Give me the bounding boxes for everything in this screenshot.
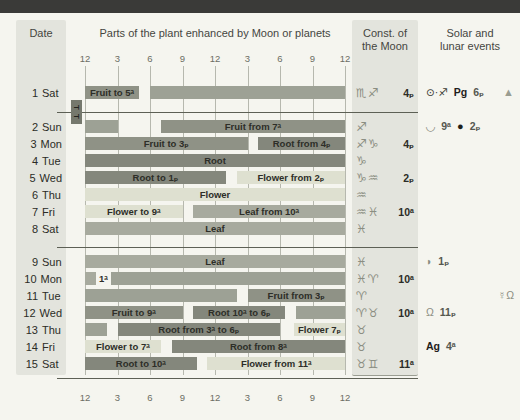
date-label: 8Sat [16,222,62,235]
bar-label: Fruit to 5ᵃ [90,87,134,98]
flower-bar: Flower 7ₚ [294,323,345,336]
leaf-bar: Leaf from 10ᵃ [193,205,345,218]
date-label: 15Sat [16,357,62,370]
leaf-bar [85,272,96,285]
section-separator [57,247,418,248]
axis-tick-bottom: 9 [180,392,185,403]
sign-change-time: 10ᵃ [398,206,414,218]
sign-change-time: 4ₚ [403,87,414,99]
moon-constellation: ♉ [356,323,414,336]
zodiac-signs: ♐♑ [356,137,380,151]
sun-into-sagittarius: ⊙·♐ [426,86,448,98]
moon-constellation: ♈♉10ᵃ [356,306,414,319]
axis-tick-bottom: 3 [115,392,120,403]
bar-label: Leaf from 10ᵃ [239,206,299,217]
root-bar: Root to 1ₚ [85,171,226,184]
date-label: 6Thu [16,188,62,201]
moon-constellation: ♒♓10ᵃ [356,205,414,218]
calendar-page: Date Parts of the plant enhanced by Moon… [0,0,520,420]
moon-constellation: ♓ [356,255,414,268]
page-top-bar [0,0,520,13]
mercury-node-icon: ☿Ω [498,289,514,301]
axis-tick-top: 3 [245,53,250,64]
date-label: 13Thu [16,323,62,336]
axis-tick-bottom: 6 [147,392,152,403]
bar-time-note: 1ᵃ [99,273,108,284]
moon-constellation: ♑ [356,154,414,167]
date-label: 2Sun [16,120,62,133]
moon-constellation: ♓♈10ᵃ [356,272,414,285]
first-quarter-time: 1ₚ [438,255,449,267]
moon-constellation: ♑♒2ₚ [356,171,414,184]
root-bar: Root from 3ᵃ to 6ₚ [118,323,281,336]
leaf-bar: Leaf [85,222,345,235]
axis-tick-top: 9 [310,53,315,64]
date-label: 9Sun [16,255,62,268]
flower-bar: Flower from 11ᵃ [207,357,345,370]
axis-tick-top: 12 [340,53,351,64]
date-label: 11Tue [16,289,62,302]
sign-change-time: 2ₚ [403,172,414,184]
bar-label: Root to 10ᵃ [116,358,166,369]
moon-constellation: ♈ [356,289,414,302]
zodiac-signs: ♓ [356,255,368,269]
fruit-bar: Fruit to 5ᵃ [85,86,139,99]
bar-label: Flower from 11ᵃ [241,358,312,369]
zodiac-signs: ♓ [356,222,368,236]
axis-tick-top: 6 [277,53,282,64]
fruit-bar: Fruit from 3ₚ [248,289,346,302]
date-label: 12Wed [16,306,62,319]
gray-bar [85,289,237,302]
zodiac-signs: ♉♊ [356,357,380,371]
zodiac-signs: ♒ [356,188,368,202]
date-label: 3Mon [16,137,62,150]
bar-label: Flower [200,189,231,200]
bar-label: Root [204,155,226,166]
date-label: 5Wed [16,171,62,184]
root-bar: Root 10ᵃ to 6ₚ [193,306,285,319]
sign-change-time: 4ₚ [403,138,414,150]
zodiac-signs: ♉ [356,340,368,354]
events-column-header: Solar and lunar events [426,27,514,53]
zodiac-signs: ♉ [356,323,368,337]
axis-tick-top: 3 [115,53,120,64]
transplanting-time-marker: T T [71,100,82,124]
bar-label: Flower 7ₚ [298,324,341,335]
axis-tick-top: 12 [80,53,91,64]
moon-constellation: ♉ [356,340,414,353]
sign-change-time: 10ᵃ [398,307,414,319]
flower-bar: Flower [85,188,345,201]
apogee-time: 4ᵃ [446,340,456,352]
apogee-label: Ag [426,340,440,352]
axis-tick-top: 6 [147,53,152,64]
zodiac-signs: ♐ [356,120,368,134]
flower-bar: Flower from 2ₚ [237,171,345,184]
axis-tick-bottom: 12 [340,392,351,403]
new-moon-icon: ● [457,120,464,132]
axis-tick-bottom: 12 [80,392,91,403]
zodiac-signs: ♒♓ [356,205,380,219]
solar-lunar-events: ◗1ₚ [426,254,514,268]
date-label: 14Fri [16,340,62,353]
bar-label: Root to 1ₚ [133,172,179,183]
bar-label: Flower from 2ₚ [257,172,324,183]
moon-constellation: ♒ [356,188,414,201]
flower-bar: Flower to 9ᵃ [85,205,183,218]
eclipse-icon: ◡ [426,119,435,133]
constellation-column-header: Const. of the Moon [352,27,418,53]
bar-label: Leaf [205,256,225,267]
section-separator [57,378,418,379]
root-bar: Root from 8ᵃ [172,340,345,353]
axis-tick-bottom: 12 [210,392,221,403]
sign-change-time: 10ᵃ [398,273,414,285]
bar-label: Root from 4ₚ [273,138,331,149]
moon-constellation: ♉♊11ᵃ [356,357,414,370]
axis-tick-bottom: 6 [277,392,282,403]
leaf-bar: Leaf [85,255,345,268]
zodiac-signs: ♈♉ [356,306,380,320]
solar-lunar-events: ☿Ω [426,288,514,302]
zodiac-signs: ♏♐ [356,86,380,100]
warning-triangle-icon: ▲ [503,86,514,98]
section-separator [57,112,418,113]
date-label: 7Fri [16,205,62,218]
